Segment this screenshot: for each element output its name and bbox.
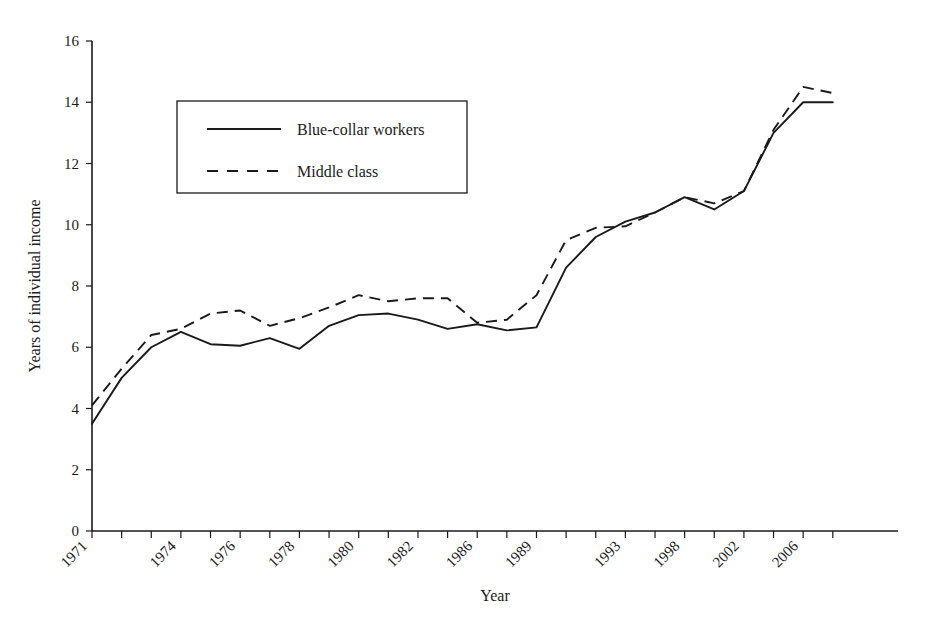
x-tick-group (92, 531, 833, 538)
y-tick-label: 16 (64, 33, 80, 49)
legend: Blue-collar workers Middle class (177, 101, 467, 193)
y-tick-label: 12 (64, 156, 79, 172)
x-tick-label: 1980 (324, 538, 357, 571)
x-tick-label: 1974 (146, 537, 179, 570)
x-tick-label: 1978 (265, 538, 298, 571)
legend-label-blue-collar-workers: Blue-collar workers (297, 121, 425, 138)
y-tick-label: 14 (64, 94, 80, 110)
x-tick-label: 1971 (58, 538, 91, 571)
x-tick-label: 1986 (443, 537, 476, 570)
x-tick-label: 1993 (591, 538, 624, 571)
y-tick-label: 4 (72, 401, 80, 417)
x-tick-label: 1982 (384, 538, 417, 571)
y-tick-label: 10 (64, 217, 79, 233)
y-tick-label: 2 (72, 462, 80, 478)
y-tick-label: 8 (72, 278, 80, 294)
x-tick-label: 1976 (206, 537, 239, 570)
chart-figure: 0246810121416 19711974197619781980198219… (0, 0, 928, 637)
x-tick-label: 1989 (502, 538, 535, 571)
x-tick-label: 1998 (650, 538, 683, 571)
y-tick-label: 0 (72, 523, 80, 539)
y-tick-group: 0246810121416 (64, 33, 92, 539)
x-tick-label-group: 1971197419761978198019821986198919931998… (58, 537, 802, 570)
legend-label-middle-class: Middle class (297, 163, 378, 180)
line-chart: 0246810121416 19711974197619781980198219… (0, 0, 928, 637)
y-axis-title: Years of individual income (26, 199, 43, 372)
x-tick-label: 2006 (769, 537, 802, 570)
x-tick-label: 2002 (710, 538, 743, 571)
y-tick-label: 6 (72, 339, 80, 355)
x-axis-title: Year (480, 587, 510, 604)
